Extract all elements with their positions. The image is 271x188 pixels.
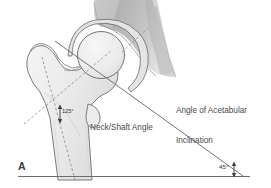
acetabular-inclination-line-1: Angle of Acetabular [176,106,268,116]
panel-label: A [18,160,26,173]
hip-anatomy-figure: Angle of Acetabular Inclination Neck/Sha… [0,0,271,188]
femoral-head [78,32,125,79]
label-neck-shaft-angle-value: 125° [62,108,74,115]
label-acetabular-inclination-value: 45° [219,163,228,171]
label-angle-of-acetabular-inclination: Angle of Acetabular Inclination [176,85,268,167]
label-neck-shaft-angle: Neck/Shaft Angle [90,123,153,133]
femur [27,32,125,181]
acetabular-inclination-line-2: Inclination [176,136,268,146]
